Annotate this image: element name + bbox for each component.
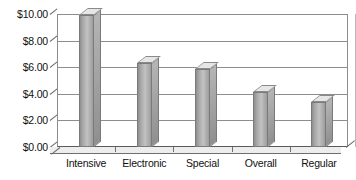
y-axis-tick-label: $8.00 — [0, 35, 48, 46]
bar-side-face — [94, 10, 101, 147]
plot-depth-right — [348, 14, 356, 147]
bar-series — [57, 14, 348, 147]
bar-front-face — [311, 102, 326, 147]
x-axis-category-label: Intensive — [66, 157, 106, 169]
x-axis-category-label: Overall — [245, 157, 277, 169]
bar-front-face — [79, 15, 94, 147]
y-axis-tick-label: $2.00 — [0, 115, 48, 126]
y-axis-labels: $10.00 $8.00 $6.00 $4.00 $2.00 $0.00 — [0, 0, 48, 180]
bar[interactable] — [137, 63, 152, 147]
bar-side-face — [268, 87, 275, 147]
plot-area — [57, 14, 348, 147]
y-axis-tick-label: $4.00 — [0, 89, 48, 100]
x-axis-tick — [290, 147, 291, 152]
bar[interactable] — [195, 69, 210, 147]
x-axis-tick — [232, 147, 233, 152]
bar-chart: $10.00 $8.00 $6.00 $4.00 $2.00 $0.00 Int… — [0, 0, 356, 180]
x-axis-category-label: Regular — [301, 157, 336, 169]
bar[interactable] — [253, 92, 268, 147]
y-axis-tick-label: $6.00 — [0, 62, 48, 73]
bar-side-face — [152, 57, 159, 147]
x-axis-tick — [173, 147, 174, 152]
y-axis-tick-label: $0.00 — [0, 142, 48, 153]
bar-side-face — [326, 97, 333, 147]
bar-front-face — [195, 69, 210, 147]
x-axis-ticks — [57, 147, 348, 152]
bar-front-face — [137, 63, 152, 147]
x-axis-category-label: Electronic — [122, 157, 166, 169]
x-axis-labels: IntensiveElectronicSpecialOverallRegular — [50, 157, 356, 177]
y-axis-tick-label: $10.00 — [0, 9, 48, 20]
x-axis-tick — [115, 147, 116, 152]
bar-front-face — [253, 92, 268, 147]
bar[interactable] — [311, 102, 326, 147]
bar[interactable] — [79, 15, 94, 147]
bar-side-face — [210, 64, 217, 147]
x-axis-category-label: Special — [186, 157, 219, 169]
